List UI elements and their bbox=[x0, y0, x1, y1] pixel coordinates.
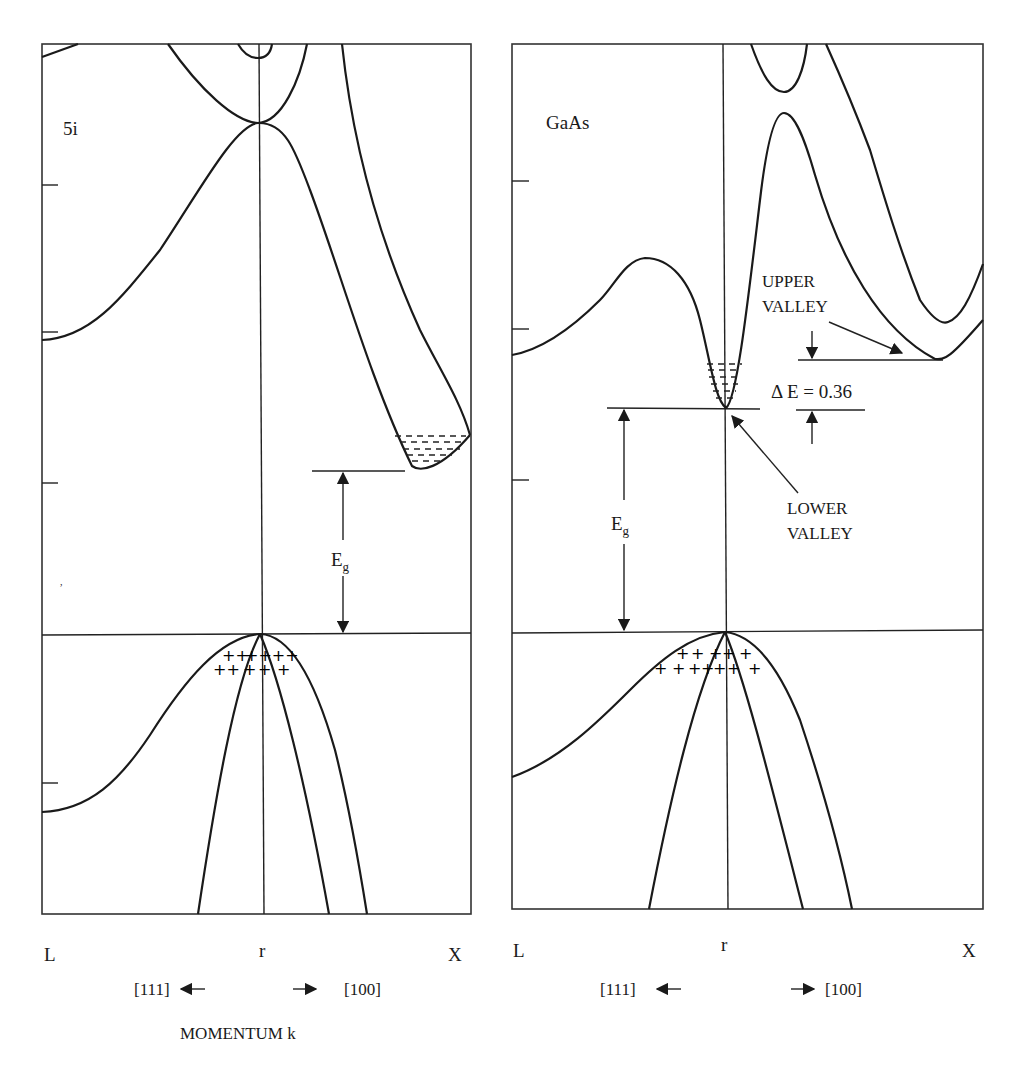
gaas-x-labels: L r X [111] [100] bbox=[513, 934, 976, 999]
svg-text:+: + bbox=[277, 660, 290, 679]
svg-text:+: + bbox=[243, 660, 256, 679]
upper-valley-pointer bbox=[829, 322, 902, 353]
gaas-material-label: GaAs bbox=[546, 112, 589, 133]
si-material-label: 5i bbox=[63, 118, 78, 139]
si-upper-cb bbox=[168, 44, 307, 123]
svg-text:+: + bbox=[688, 659, 701, 678]
gaas-frame bbox=[512, 44, 983, 909]
svg-text:+: + bbox=[654, 659, 667, 678]
gaas-y-ticks bbox=[512, 181, 529, 480]
si-dir-111: [111] bbox=[134, 980, 170, 999]
si-band-loop bbox=[238, 44, 272, 58]
lower-valley-pointer bbox=[732, 416, 798, 493]
svg-text:+: + bbox=[748, 659, 761, 678]
si-label-L: L bbox=[44, 944, 56, 965]
gaas-label-gamma: r bbox=[721, 934, 728, 955]
gaas-dir-111: [111] bbox=[600, 980, 636, 999]
stray-mark: , bbox=[60, 576, 63, 587]
si-y-ticks bbox=[42, 185, 58, 783]
gaas-valence-edge bbox=[512, 630, 983, 633]
si-dir-100: [100] bbox=[344, 980, 381, 999]
delta-e-label: Δ E = 0.36 bbox=[771, 381, 852, 402]
x-axis-title: MOMENTUM k bbox=[180, 1024, 296, 1043]
si-gamma-line bbox=[259, 44, 264, 914]
upper-valley-label-1: UPPER bbox=[762, 272, 816, 291]
gaas-conduction-band-2 bbox=[826, 44, 983, 323]
gaas-dir-100: [100] bbox=[825, 980, 862, 999]
si-label-gamma: r bbox=[259, 940, 266, 961]
si-label-X: X bbox=[448, 944, 462, 965]
svg-text:+: + bbox=[727, 659, 740, 678]
upper-valley-label-2: VALLEY bbox=[762, 297, 828, 316]
gaas-gamma-line bbox=[723, 44, 728, 909]
gaas-holes: + + + + + + + + + + + + bbox=[654, 644, 761, 678]
band-structure-diagram: Eg ++ ++++ ++ + + + 5i , bbox=[0, 0, 1017, 1070]
si-frame bbox=[42, 44, 471, 914]
gaas-panel: + + + + + + + + + + + + Eg GaAs UPPER VA… bbox=[512, 44, 983, 909]
si-x-labels: L r X [111] [100] MOMENTUM k bbox=[44, 940, 462, 1043]
svg-text:+: + bbox=[672, 659, 685, 678]
gaas-conduction-band bbox=[512, 113, 983, 408]
si-band-corner bbox=[42, 44, 78, 57]
lower-valley-label-1: LOWER bbox=[787, 499, 848, 518]
lower-valley-label-2: VALLEY bbox=[787, 524, 853, 543]
si-conduction-band-2 bbox=[342, 44, 470, 435]
gaas-label-X: X bbox=[962, 940, 976, 961]
gaas-lower-valley-edge bbox=[607, 408, 760, 409]
svg-text:+: + bbox=[713, 659, 726, 678]
svg-text:+: + bbox=[258, 660, 271, 679]
si-electrons bbox=[395, 436, 466, 461]
svg-text:++: ++ bbox=[213, 660, 240, 679]
si-panel: Eg ++ ++++ ++ + + + 5i , bbox=[42, 44, 471, 914]
si-holes: ++ ++++ ++ + + + bbox=[213, 646, 299, 679]
gaas-label-L: L bbox=[513, 940, 525, 961]
gaas-top-band bbox=[751, 44, 807, 92]
